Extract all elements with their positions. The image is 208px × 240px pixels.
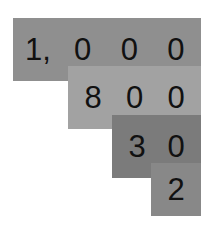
digit: 0	[120, 82, 150, 113]
digit: 0	[161, 82, 191, 113]
digit: 3	[122, 131, 152, 162]
place-value-box-ones: 2	[151, 163, 201, 216]
digit: 1,	[25, 34, 51, 65]
digit: 2	[161, 174, 191, 205]
digit: 0	[161, 34, 191, 65]
digit: 8	[78, 82, 108, 113]
digit: 0	[114, 34, 144, 65]
digit: 0	[68, 34, 98, 65]
digit: 0	[161, 131, 191, 162]
